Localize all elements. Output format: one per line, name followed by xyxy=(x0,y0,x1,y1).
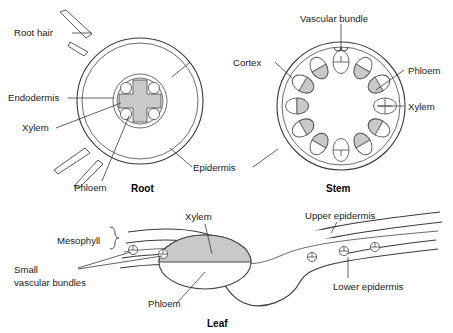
label-cortex: Cortex xyxy=(233,57,261,68)
label-upper-epidermis: Upper epidermis xyxy=(305,210,376,221)
label-endodermis: Endodermis xyxy=(8,92,59,103)
label-phloem-stem: Phloem xyxy=(408,65,441,76)
vascular-bundle xyxy=(286,98,309,114)
caption-root: Root xyxy=(131,183,154,194)
label-vascular-bundle: Vascular bundle xyxy=(300,13,368,24)
small-vascular-bundle xyxy=(339,246,348,255)
label-epidermis: Epidermis xyxy=(193,162,236,173)
vascular-bundle xyxy=(333,51,349,74)
label-root-hair: Root hair xyxy=(14,27,54,38)
stem-diagram: Vascular bundle Phloem Xylem Stem xyxy=(253,13,441,194)
label-xylem-leaf: Xylem xyxy=(185,211,212,222)
caption-leaf: Leaf xyxy=(207,318,228,329)
label-mesophyll: Mesophyll xyxy=(57,235,100,246)
small-vascular-bundle xyxy=(307,252,316,261)
leader-small-bundles-b xyxy=(78,256,162,269)
caption-stem: Stem xyxy=(326,183,351,194)
label-small-vascular-bundles-line2: vascular bundles xyxy=(14,277,86,288)
label-small-vascular-bundles-line1: Small xyxy=(14,264,38,275)
leaf-midrib-bundle xyxy=(159,235,251,289)
leader-epidermis-stem xyxy=(253,149,278,167)
label-phloem-leaf: Phloem xyxy=(148,298,181,309)
root-diagram: Root hair Endodermis Xylem Phloem Root xyxy=(8,10,203,194)
small-vascular-bundle xyxy=(370,242,379,251)
label-xylem-stem: Xylem xyxy=(408,101,435,112)
label-xylem-root: Xylem xyxy=(22,122,49,133)
mesophyll-brace xyxy=(110,227,119,249)
leaf-diagram: Mesophyll Small vascular bundles Xylem P… xyxy=(14,210,442,329)
small-vascular-bundle xyxy=(158,249,167,258)
label-phloem-root: Phloem xyxy=(74,182,107,193)
small-vascular-bundle xyxy=(128,245,137,254)
plant-cross-section-figure: Root hair Endodermis Xylem Phloem Root C… xyxy=(0,0,453,333)
diagram-canvas: Root hair Endodermis Xylem Phloem Root C… xyxy=(0,0,453,333)
leader-epidermis-root xyxy=(170,148,192,167)
leader-small-bundles-a xyxy=(78,252,131,268)
label-lower-epidermis: Lower epidermis xyxy=(333,281,404,292)
vascular-bundle xyxy=(333,139,349,162)
